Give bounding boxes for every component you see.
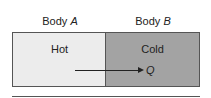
body-a-var: A: [70, 15, 77, 27]
body-b-box: Cold: [105, 32, 200, 87]
body-a-label: Body A: [30, 15, 90, 27]
heat-q-label: Q: [146, 64, 155, 76]
cold-label: Cold: [106, 43, 199, 55]
body-a-box: Hot: [12, 32, 106, 87]
arrowhead-icon: [138, 67, 144, 73]
body-a-prefix: Body: [42, 15, 70, 27]
body-b-prefix: Body: [135, 15, 163, 27]
body-b-var: B: [163, 15, 170, 27]
hot-label: Hot: [13, 43, 106, 55]
baseline-rule: [12, 96, 200, 97]
heat-flow-arrow: [75, 70, 140, 71]
body-b-label: Body B: [123, 15, 183, 27]
